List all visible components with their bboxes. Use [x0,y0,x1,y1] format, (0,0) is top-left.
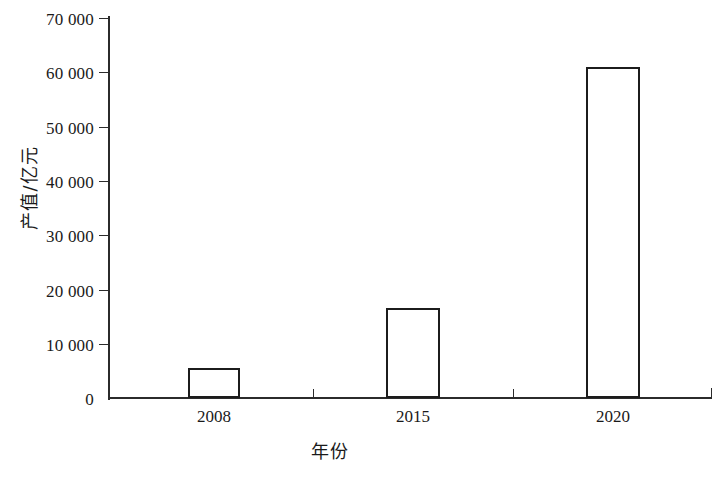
x-axis-tick-2 [513,389,514,398]
y-axis-label-10000: 10 000 [0,337,94,354]
y-axis-label-60000: 60 000 [0,65,94,82]
y-axis-label-70000: 70 000 [0,11,94,28]
y-axis-tick-30000 [99,235,109,236]
y-axis-label-0: 0 [0,391,94,408]
y-axis-tick-10000 [99,344,109,345]
x-axis-tick-1 [313,389,314,398]
y-axis-title: 产值/亿元 [15,118,41,258]
y-axis-tick-50000 [99,127,109,128]
x-axis-label-2015: 2015 [373,408,453,426]
x-axis-title-text: 年份 [311,437,349,463]
x-axis-title: 年份 [0,437,728,463]
y-axis-tick-60000 [99,72,109,73]
bar-2008 [188,368,240,398]
x-axis-tick-end [711,388,712,398]
y-axis-tick-70000 [99,18,109,19]
bar-chart: 70 000 60 000 50 000 40 000 30 000 20 00… [0,0,728,477]
y-axis-label-20000: 20 000 [0,283,94,300]
y-axis-tick-20000 [99,290,109,291]
y-axis-tick-40000 [99,181,109,182]
x-axis-label-2020: 2020 [573,408,653,426]
bar-2015 [386,308,440,398]
y-axis-line [108,16,110,400]
x-axis-label-2008: 2008 [174,408,254,426]
bar-2020 [586,67,640,398]
